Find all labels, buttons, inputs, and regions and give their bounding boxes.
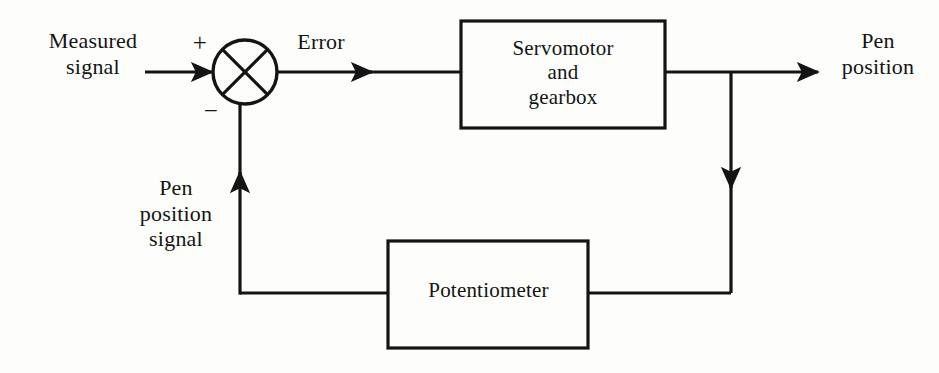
potentiometer-block-label: Potentiometer <box>390 278 587 302</box>
servomotor-block-label: Servomotor and gearbox <box>463 36 663 109</box>
block-diagram-figure: Measured signal Error Pen position Pen p… <box>0 0 939 373</box>
error-label: Error <box>272 29 370 55</box>
summing-junction-plus-sign: + <box>189 30 211 55</box>
pen-position-output-label: Pen position <box>816 28 939 79</box>
pen-position-signal-label: Pen position signal <box>116 175 236 252</box>
summing-junction-minus-sign: − <box>200 98 222 123</box>
measured-signal-label: Measured signal <box>18 28 168 79</box>
